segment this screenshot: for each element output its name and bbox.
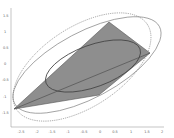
x-tick: -2 (35, 130, 39, 134)
x-tick: -2.5 (18, 130, 25, 134)
y-tick: -1.5 (2, 111, 9, 115)
y-tick: -0.5 (2, 78, 9, 82)
filled-polygon (14, 22, 150, 109)
plot-area (0, 0, 174, 138)
y-tick: -1 (3, 95, 7, 99)
x-tick: 0.5 (112, 130, 118, 134)
y-ticks: 1.5 1 0.5 0 -0.5 -1 -1.5 (2, 14, 9, 115)
x-tick: -1.5 (49, 130, 56, 134)
x-tick: -1 (66, 130, 70, 134)
x-tick: 0 (99, 130, 101, 134)
y-tick: 1.5 (3, 14, 9, 18)
y-tick: 0 (4, 62, 6, 66)
y-tick: 1 (4, 30, 6, 34)
x-tick: 1 (130, 130, 132, 134)
chart: 1.5 1 0.5 0 -0.5 -1 -1.5 -2.5 -2 -1.5 -1… (0, 0, 174, 138)
x-tick: -0.5 (81, 130, 88, 134)
x-tick: 2 (161, 130, 163, 134)
x-tick: 1.5 (144, 130, 150, 134)
x-ticks: -2.5 -2 -1.5 -1 -0.5 0 0.5 1 1.5 2 (18, 130, 164, 134)
y-tick: 0.5 (3, 46, 9, 50)
